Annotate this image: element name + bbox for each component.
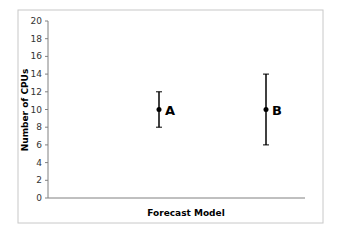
y-tick-label: 16	[31, 51, 43, 61]
y-axis-title: Number of CPUs	[20, 69, 30, 152]
y-tick-label: 10	[31, 105, 43, 115]
y-tick-label: 14	[31, 69, 43, 79]
x-axis-title: Forecast Model	[147, 208, 224, 218]
marker	[264, 107, 269, 112]
y-tick-label: 12	[31, 87, 42, 97]
y-tick-label: 18	[31, 34, 43, 44]
chart: 02468101214161820 AB Forecast Model Numb…	[0, 0, 338, 235]
y-tick-label: 6	[36, 140, 42, 150]
y-tick-label: 4	[36, 158, 42, 168]
y-tick-label: 2	[36, 175, 42, 185]
point-label: B	[272, 103, 282, 118]
marker	[157, 107, 162, 112]
y-tick-label: 0	[36, 193, 42, 203]
point-label: A	[165, 103, 175, 118]
y-tick-label: 20	[31, 16, 43, 26]
y-tick-label: 8	[36, 122, 42, 132]
